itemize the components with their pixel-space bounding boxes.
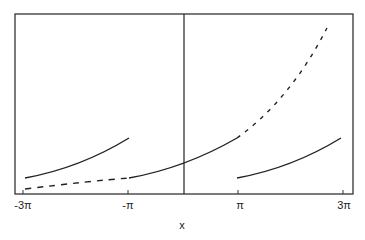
chart-canvas xyxy=(0,0,365,240)
x-axis-label: x xyxy=(179,219,185,231)
series-exponential-right-dashed xyxy=(237,28,327,138)
x-tick-label: -3π xyxy=(14,199,31,211)
series-periodic-piece-1 xyxy=(25,138,129,178)
x-tick-label: -π xyxy=(122,199,133,211)
x-tick-label: π xyxy=(236,199,244,211)
x-tick-label: 3π xyxy=(337,199,351,211)
series-periodic-piece-3 xyxy=(237,138,341,178)
series-exponential-left-dashed xyxy=(25,178,129,189)
series-periodic-piece-2 xyxy=(129,138,237,178)
